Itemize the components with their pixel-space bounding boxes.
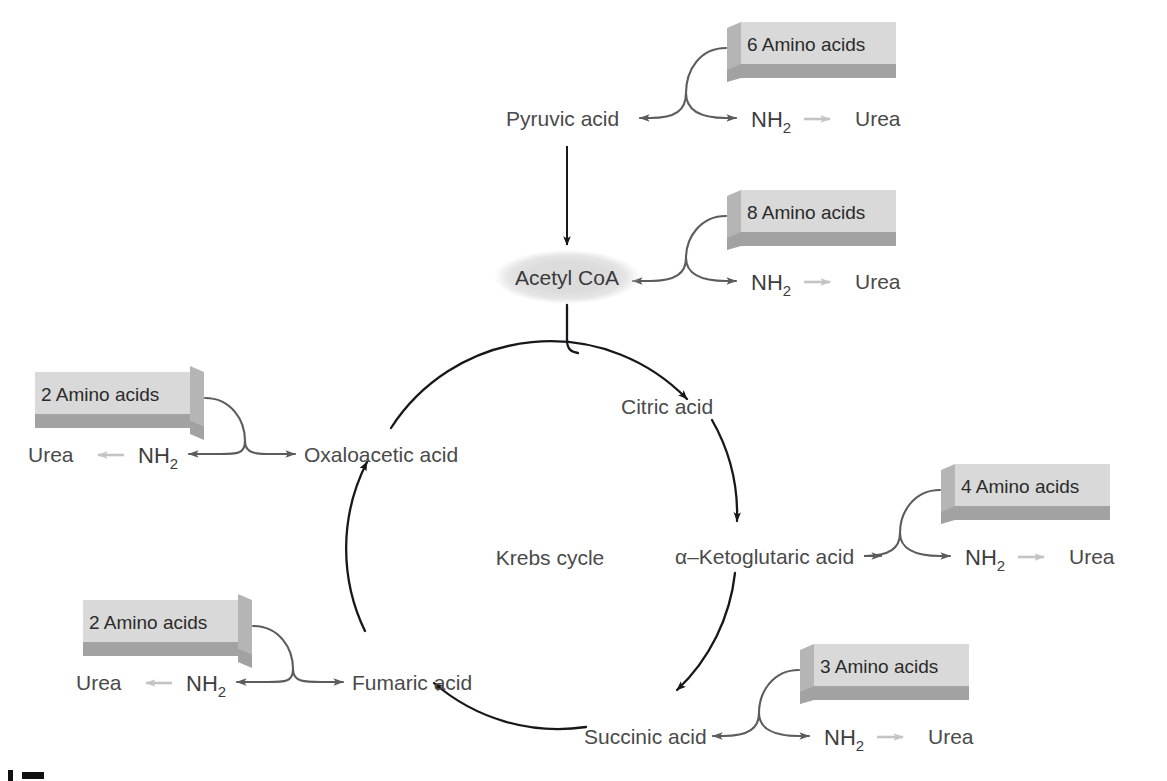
end-product-label-oxaloacetic: Urea [28,443,74,466]
node-label-succinic-acid: Succinic acid [584,725,707,748]
end-product-label-succinic: Urea [928,725,974,748]
amino-acid-box-fumaric[interactable]: 2 Amino acids [83,594,252,668]
arc-citric-to-ketoglutaric [712,420,737,521]
fork-stem-pyruvic [686,48,726,93]
entry-group-ketoglutaric: 4 Amino acids α–Ketoglutaric acid NH2 Ur… [675,464,1115,574]
arc-fumaric-to-oxaloacetic [346,462,367,631]
byproduct-label-acetyl: NH2 [751,270,791,299]
page-number-artifact [8,770,44,781]
byproduct-label-pyruvic: NH2 [751,107,791,136]
fork-right-pyruvic [686,93,736,118]
node-label-ketoglutaric-acid: α–Ketoglutaric acid [675,545,854,568]
fork-left-ketoglutaric [864,533,900,556]
fork-stem-fumaric [253,626,293,669]
cycle-center-label: Krebs cycle [496,546,605,569]
amino-acid-box-ketoglutaric[interactable]: 4 Amino acids [941,464,1110,524]
arc-ketoglutaric-to-succinic [677,573,735,690]
fork-right-succinic [759,713,809,736]
node-label-citric-acid: Citric acid [621,395,713,418]
amino-acid-box-acetyl[interactable]: 8 Amino acids [727,190,896,250]
entry-group-oxaloacetic: 2 Amino acids Urea NH2 Oxaloacetic acid [28,366,458,472]
amino-acid-box-label-succinic: 3 Amino acids [820,656,938,677]
fork-stem-succinic [759,670,799,713]
entry-group-acetyl: 8 Amino acids Acetyl CoA NH2 Urea [494,190,901,304]
end-product-label-pyruvic: Urea [855,107,901,130]
fork-left-fumaric [237,669,293,682]
node-label-pyruvic-acid: Pyruvic acid [506,107,619,130]
krebs-cycle-diagram: 6 Amino acids Pyruvic acid NH2 Urea 8 Am… [0,0,1167,781]
fork-left-oxaloacetic [189,441,245,454]
amino-acid-box-pyruvic[interactable]: 6 Amino acids [727,22,896,82]
end-product-label-acetyl: Urea [855,270,901,293]
entry-group-fumaric: 2 Amino acids Urea NH2 Fumaric acid [76,594,472,700]
amino-acid-box-oxaloacetic[interactable]: 2 Amino acids [35,366,204,440]
node-label-fumaric-acid: Fumaric acid [352,671,472,694]
amino-acid-box-label-ketoglutaric: 4 Amino acids [961,476,1079,497]
fork-right-fumaric [293,669,343,682]
byproduct-label-ketoglutaric: NH2 [965,545,1005,574]
node-label-acetyl-coa: Acetyl CoA [515,266,619,289]
fork-right-ketoglutaric [900,533,950,556]
fork-left-succinic [713,713,759,736]
amino-acid-box-label-fumaric: 2 Amino acids [89,612,207,633]
amino-acid-box-label-pyruvic: 6 Amino acids [747,34,865,55]
connector-acetyl-to-cycle [567,305,578,353]
amino-acid-box-label-oxaloacetic: 2 Amino acids [41,384,159,405]
amino-acid-box-succinic[interactable]: 3 Amino acids [800,644,969,704]
entry-group-succinic: 3 Amino acids Succinic acid NH2 Urea [584,644,974,754]
fork-right-oxaloacetic [245,441,295,454]
byproduct-label-succinic: NH2 [824,725,864,754]
byproduct-label-oxaloacetic: NH2 [138,443,178,472]
fork-stem-acetyl [686,216,726,258]
entry-group-pyruvic: 6 Amino acids Pyruvic acid NH2 Urea [506,22,901,136]
byproduct-label-fumaric: NH2 [186,671,226,700]
fork-stem-ketoglutaric [900,490,940,533]
amino-acid-box-label-acetyl: 8 Amino acids [747,202,865,223]
fork-left-pyruvic [640,93,686,118]
end-product-label-ketoglutaric: Urea [1069,545,1115,568]
fork-stem-oxaloacetic [205,398,245,441]
fork-right-acetyl [686,258,736,281]
end-product-label-fumaric: Urea [76,671,122,694]
fork-left-acetyl [633,258,686,281]
node-label-oxaloacetic-acid: Oxaloacetic acid [304,443,458,466]
